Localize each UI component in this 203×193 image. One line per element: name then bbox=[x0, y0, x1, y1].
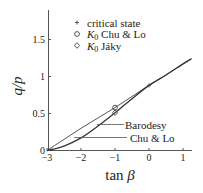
annotation-label: Barodesy bbox=[125, 119, 167, 131]
x-tick-label: −2 bbox=[76, 152, 87, 163]
y-tick-label: 1.5 bbox=[33, 34, 46, 45]
diamond-marker-icon bbox=[74, 43, 79, 49]
x-tick-label: 0 bbox=[147, 152, 152, 163]
annotation-label: Chu & Lo bbox=[130, 132, 175, 144]
x-axis-label: tan β bbox=[105, 167, 135, 183]
x-tick-label: −1 bbox=[110, 152, 121, 163]
plus-marker-icon bbox=[75, 21, 79, 25]
annotations: BarodesyChu & Lo bbox=[74, 119, 175, 144]
circle-marker-icon bbox=[75, 32, 80, 37]
legend: critical stateK0 Chu & LoK0 Jáky bbox=[74, 17, 146, 54]
y-tick-label: 1 bbox=[40, 71, 45, 82]
y-tick-label: 0 bbox=[40, 145, 45, 156]
y-axis-label: q/p bbox=[9, 76, 25, 96]
y-tick-label: 0.5 bbox=[33, 108, 46, 119]
legend-label: K0 Jáky bbox=[86, 40, 122, 54]
chart: −3−2−101 00.511.5 q/p tan β BarodesyChu … bbox=[0, 0, 203, 193]
x-tick-label: 1 bbox=[181, 152, 186, 163]
legend-label: critical state bbox=[87, 17, 141, 29]
